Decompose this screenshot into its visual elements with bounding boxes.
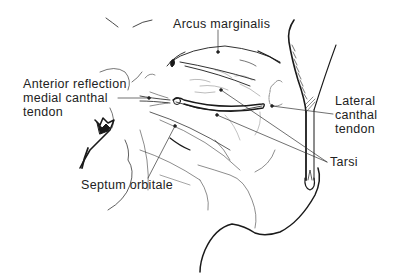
label-line-1: Anterior reflection [23, 77, 127, 91]
lateral-fat-edge [269, 80, 282, 106]
lateral-orbit [289, 20, 336, 190]
eyelid-illustration [0, 0, 393, 277]
label-text: Septum orbitale [81, 178, 173, 192]
label-line-2: canthal [335, 108, 377, 122]
label-text: Arcus marginalis [173, 17, 270, 31]
label-arcus-marginalis: Arcus marginalis [173, 17, 270, 31]
leader-lines [118, 30, 333, 178]
upper-lid-texture [190, 70, 260, 96]
palpebral-fissure [173, 98, 264, 112]
label-tarsi: Tarsi [330, 155, 358, 169]
label-line-1: Lateral [335, 94, 377, 108]
lower-lid [140, 112, 260, 180]
label-line-2: medial canthal [23, 91, 127, 105]
label-line-3: tendon [23, 105, 127, 119]
label-line-3: tendon [335, 122, 377, 136]
label-text: Tarsi [330, 155, 358, 169]
anatomy-diagram: Arcus marginalis Anterior reflection med… [0, 0, 393, 277]
label-anterior-reflection-medial-canthal-tendon: Anterior reflection medial canthal tendo… [23, 77, 127, 119]
nasal-bone [80, 108, 132, 210]
brow-strokes [106, 18, 152, 27]
label-septum-orbitale: Septum orbitale [81, 178, 173, 192]
cheek-contour [160, 150, 319, 272]
label-lateral-canthal-tendon: Lateral canthal tendon [335, 94, 377, 136]
upper-orbit-contour [167, 46, 280, 86]
